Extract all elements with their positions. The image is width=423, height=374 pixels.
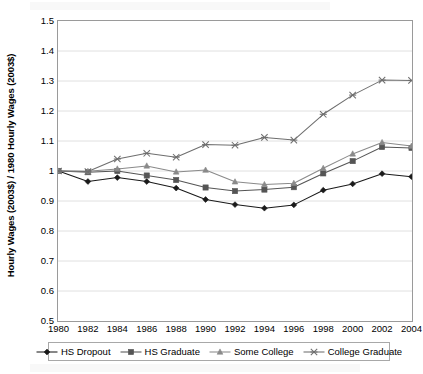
y-tick-label: 1.2 <box>20 106 54 116</box>
legend-item-some-college[interactable]: Some College <box>209 347 294 357</box>
y-tick-label: 1.4 <box>20 46 54 56</box>
data-point <box>261 134 268 140</box>
x-tick-label: 1986 <box>136 323 157 335</box>
legend-label: College Graduate <box>328 347 402 357</box>
data-point <box>379 171 385 177</box>
data-point <box>174 177 179 182</box>
scan-artifact <box>30 2 330 10</box>
legend-label: HS Graduate <box>145 347 200 357</box>
legend-item-hs-graduate[interactable]: HS Graduate <box>120 347 200 357</box>
data-point <box>232 189 237 194</box>
data-point <box>379 144 384 149</box>
data-point <box>262 205 268 211</box>
legend-item-hs-dropout[interactable]: HS Dropout <box>36 347 111 357</box>
x-tick-label: 1984 <box>107 323 128 335</box>
data-point <box>320 111 327 117</box>
y-tick-label: 1.1 <box>20 136 54 146</box>
x-tick-label: 2000 <box>342 323 363 335</box>
y-tick-label: 0.6 <box>20 286 54 296</box>
data-point <box>203 167 209 172</box>
series-college-graduate <box>58 77 412 175</box>
data-point <box>409 174 412 180</box>
data-point <box>231 142 238 148</box>
line-chart: Hourly Wages (2003$) / 1980 Hourly Wages… <box>0 0 423 374</box>
legend-label: Some College <box>234 347 294 357</box>
data-point <box>144 173 149 178</box>
x-tick-label: 2002 <box>372 323 393 335</box>
data-point <box>144 163 150 168</box>
y-axis-title-text: Hourly Wages (2003$) / 1980 Hourly Wages… <box>6 53 17 277</box>
data-point <box>290 137 297 143</box>
y-tick-label: 0.9 <box>20 196 54 206</box>
data-point <box>349 92 356 98</box>
y-tick-label: 1.3 <box>20 76 54 86</box>
x-tick-label: 1988 <box>166 323 187 335</box>
data-point <box>114 175 120 181</box>
data-point <box>144 179 150 185</box>
x-tick-label: 1996 <box>283 323 304 335</box>
data-point <box>173 185 179 191</box>
data-point <box>203 197 209 203</box>
data-point <box>350 181 356 187</box>
x-tick-label: 1998 <box>313 323 334 335</box>
data-point <box>379 77 386 83</box>
x-axis-ticks: 1980198219841986198819901992199419961998… <box>57 323 413 337</box>
legend-marker-triangle-icon <box>209 347 231 357</box>
legend-marker-square-icon <box>120 347 142 357</box>
x-tick-label: 2004 <box>401 323 422 335</box>
data-point <box>173 154 180 160</box>
legend-marker-x-icon <box>303 347 325 357</box>
data-point <box>203 185 208 190</box>
x-tick-label: 1982 <box>77 323 98 335</box>
data-point <box>262 187 267 192</box>
data-point <box>232 202 238 208</box>
data-point <box>202 141 209 147</box>
x-tick-label: 1992 <box>224 323 245 335</box>
data-point <box>379 139 385 144</box>
y-tick-label: 0.8 <box>20 226 54 236</box>
y-tick-label: 1.5 <box>20 16 54 26</box>
plot-svg <box>58 21 412 321</box>
chart-legend: HS DropoutHS GraduateSome CollegeCollege… <box>48 342 390 361</box>
series-some-college <box>58 139 412 186</box>
data-point <box>320 187 326 193</box>
y-axis-ticks: 1.51.41.31.21.110.90.80.70.60.5 <box>20 0 54 374</box>
y-tick-label: 1 <box>20 166 54 176</box>
data-point <box>114 156 121 162</box>
legend-item-college-graduate[interactable]: College Graduate <box>303 347 402 357</box>
x-tick-label: 1990 <box>195 323 216 335</box>
data-point <box>321 171 326 176</box>
data-point <box>291 202 297 208</box>
scan-artifact <box>30 364 360 372</box>
y-axis-title: Hourly Wages (2003$) / 1980 Hourly Wages… <box>0 0 22 330</box>
legend-label: HS Dropout <box>61 347 111 357</box>
data-point <box>85 179 91 185</box>
y-tick-label: 0.7 <box>20 256 54 266</box>
data-point <box>350 159 355 164</box>
data-point <box>143 150 150 156</box>
data-point <box>408 77 412 83</box>
x-tick-label: 1980 <box>48 323 69 335</box>
x-tick-label: 1994 <box>254 323 275 335</box>
plot-area <box>57 20 413 322</box>
legend-marker-diamond-icon <box>36 347 58 357</box>
